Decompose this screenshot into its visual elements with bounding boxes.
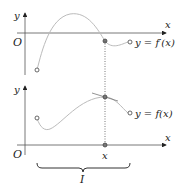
function-start-open-point [35, 116, 39, 120]
function-curve [37, 97, 128, 130]
interval-label: I [79, 173, 85, 186]
derivative-end-open-point [128, 40, 132, 44]
interval-brace [37, 163, 130, 172]
top-graph: y x O y = f′(x) [13, 10, 175, 75]
x-axis-point [103, 143, 107, 147]
top-origin-label: O [13, 36, 22, 49]
derivative-curve [37, 14, 128, 70]
function-curve-label: y = f(x) [134, 108, 173, 119]
function-end-open-point [128, 111, 132, 115]
derivative-start-open-point [35, 68, 39, 72]
derivative-curve-label: y = f′(x) [134, 37, 175, 48]
bottom-y-label: y [13, 84, 20, 95]
top-x-label: x [165, 19, 171, 30]
bottom-origin-label: O [13, 148, 22, 161]
x-point-label: x [102, 150, 108, 161]
function-point [103, 95, 107, 99]
bottom-graph: y x O y = f(x) x I [13, 84, 173, 186]
top-y-label: y [13, 10, 20, 21]
derivative-diagram: y x O y = f′(x) y x O y = f(x) x I [0, 0, 186, 189]
bottom-x-label: x [165, 132, 171, 143]
